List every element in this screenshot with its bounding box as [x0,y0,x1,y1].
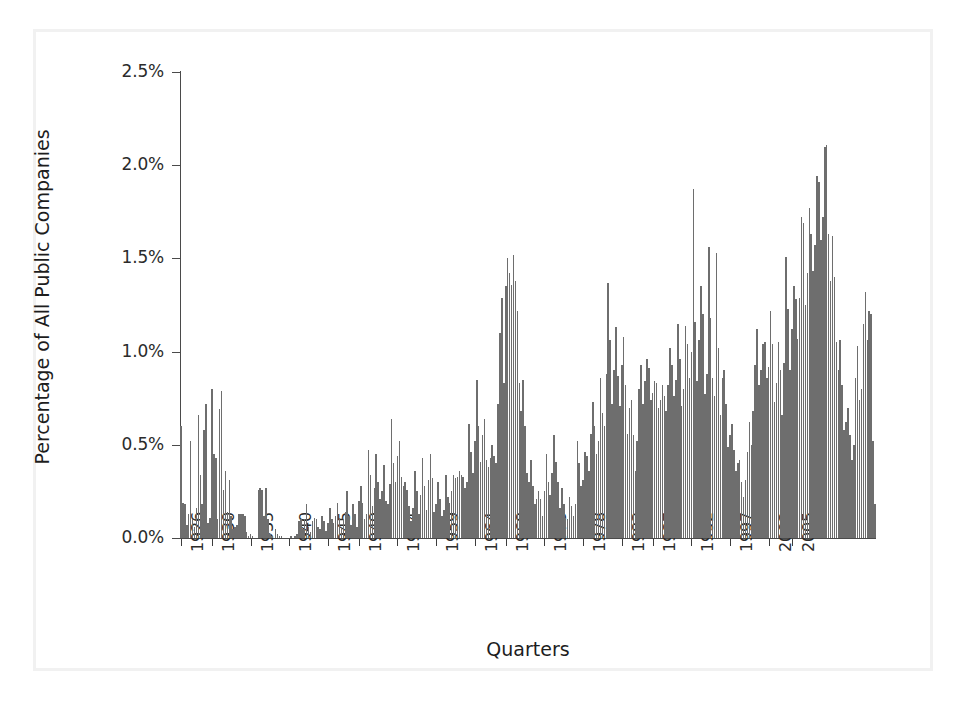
x-tick-mark [544,539,545,546]
y-tick-mark [172,445,180,446]
y-tick-label-text: 2.5% [94,61,164,81]
bar [252,536,254,538]
y-tick-label: 1.0% [92,341,164,361]
x-tick-mark [251,539,252,546]
x-tick-mark [769,539,770,546]
x-tick-mark [359,539,360,546]
y-tick-mark [172,538,180,539]
x-tick-mark [289,539,290,546]
x-tick-mark [212,539,213,546]
x-tick-mark [181,539,182,546]
y-tick-label: 2.5% [92,61,164,81]
x-tick-mark [583,539,584,546]
x-tick-mark [622,539,623,546]
bar [281,536,283,538]
y-tick-label-text: 2.0% [94,154,164,174]
x-tick-mark [475,539,476,546]
figure-container: 0.0%0.5%1.0%1.5%2.0%2.5% 192619301935194… [0,0,966,701]
x-tick-mark [436,539,437,546]
y-tick-label-text: 1.0% [94,341,164,361]
y-tick-label-text: 0.5% [94,434,164,454]
y-tick-label-text: 0.0% [94,527,164,547]
y-tick-label: 0.5% [92,434,164,454]
bar [271,536,273,538]
y-tick-label: 1.5% [92,247,164,267]
y-axis-title: Percentage of All Public Companies [31,87,53,507]
x-tick-mark [792,539,793,546]
y-tick-label: 0.0% [92,527,164,547]
x-axis-title: Quarters [180,638,876,660]
y-tick-mark [172,258,180,259]
bar [290,536,292,538]
bar [205,404,207,538]
x-tick-mark [691,539,692,546]
bar [874,504,876,538]
y-tick-mark [172,165,180,166]
x-tick-mark [506,539,507,546]
y-tick-mark [172,352,180,353]
x-tick-mark [653,539,654,546]
y-tick-label: 2.0% [92,154,164,174]
x-tick-mark [397,539,398,546]
y-tick-label-text: 1.5% [94,247,164,267]
y-tick-mark [172,72,180,73]
bar-series [180,72,876,538]
x-tick-mark [328,539,329,546]
x-tick-mark [730,539,731,546]
